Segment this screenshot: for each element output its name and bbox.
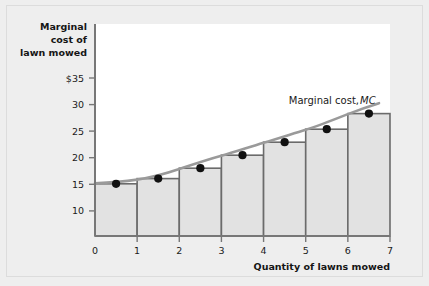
y-axis-title-line: cost of bbox=[51, 34, 88, 45]
x-tick-label: 1 bbox=[134, 245, 140, 256]
marginal-cost-chart: $35 30 25 20 15 10 0 1 2 3 4 5 6 7 Margi… bbox=[7, 6, 422, 276]
x-tick-label: 7 bbox=[387, 245, 393, 256]
x-tick-label: 3 bbox=[218, 245, 224, 256]
data-point bbox=[196, 164, 204, 172]
marginal-cost-curve-label: Marginal cost, bbox=[289, 95, 359, 106]
x-tick-label: 5 bbox=[303, 245, 309, 256]
y-axis-title-line: Marginal bbox=[40, 21, 87, 32]
y-tick-label: 30 bbox=[72, 99, 84, 110]
data-point bbox=[281, 138, 289, 146]
figure-container: $35 30 25 20 15 10 0 1 2 3 4 5 6 7 Margi… bbox=[0, 0, 429, 286]
x-axis-title: Quantity of lawns mowed bbox=[254, 261, 390, 272]
marginal-cost-curve-label-text: Marginal cost, bbox=[289, 95, 359, 106]
figure-panel: $35 30 25 20 15 10 0 1 2 3 4 5 6 7 Margi… bbox=[6, 5, 423, 277]
y-tick-label: $35 bbox=[66, 73, 84, 84]
bar-6-7 bbox=[348, 114, 390, 236]
marginal-cost-curve-label-emphasis: MC bbox=[360, 95, 376, 106]
y-tick-label: 15 bbox=[72, 179, 84, 190]
x-tick-label: 0 bbox=[92, 245, 98, 256]
bar-0-1 bbox=[95, 184, 137, 236]
y-tick-label: 25 bbox=[72, 126, 84, 137]
x-tick-label: 2 bbox=[176, 245, 182, 256]
y-tick-labels: $35 30 25 20 15 10 bbox=[66, 73, 84, 217]
data-point bbox=[154, 175, 162, 183]
x-tick-labels: 0 1 2 3 4 5 6 7 bbox=[92, 245, 393, 256]
x-tick-label: 4 bbox=[261, 245, 267, 256]
y-axis-title: Marginal cost of lawn mowed bbox=[20, 21, 88, 58]
data-point bbox=[112, 180, 120, 188]
bar-1-2 bbox=[137, 179, 179, 236]
y-tick-label: 20 bbox=[72, 152, 84, 163]
data-point bbox=[365, 110, 373, 118]
data-point bbox=[323, 125, 331, 133]
bar-5-6 bbox=[306, 129, 348, 236]
data-point bbox=[238, 151, 246, 159]
bar-2-3 bbox=[179, 168, 221, 236]
bar-3-4 bbox=[221, 155, 263, 236]
bar-4-5 bbox=[264, 142, 306, 236]
x-tick-label: 6 bbox=[345, 245, 351, 256]
y-tick-label: 10 bbox=[72, 205, 84, 216]
y-axis-title-line: lawn mowed bbox=[20, 47, 87, 58]
